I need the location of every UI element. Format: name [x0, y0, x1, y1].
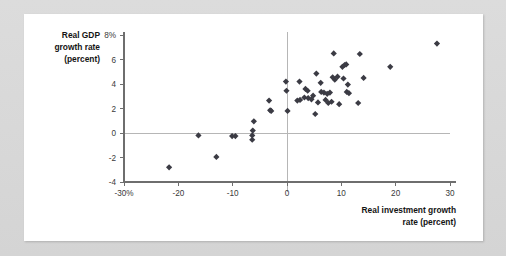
data-point-marker — [213, 154, 219, 160]
data-point-marker — [232, 133, 238, 139]
data-point-marker — [318, 80, 324, 86]
y-axis-title-line: growth rate — [54, 42, 100, 52]
x-tick-label: 10 — [337, 189, 347, 198]
data-point-marker — [315, 99, 321, 105]
y-tick-label: -2 — [109, 154, 117, 163]
x-tick-label: 30 — [445, 189, 455, 198]
scatter-plot-svg: -4-202468%-30%-20-100102030Real GDPgrowt… — [24, 14, 483, 241]
scatter-plot: -4-202468%-30%-20-100102030Real GDPgrowt… — [24, 14, 483, 241]
data-point-marker — [284, 108, 290, 114]
figure-root: -4-202468%-30%-20-100102030Real GDPgrowt… — [0, 0, 506, 256]
x-tick-label: 20 — [391, 189, 401, 198]
y-tick-label: -4 — [109, 178, 117, 187]
x-tick-label: -30% — [114, 189, 133, 198]
data-point-marker — [357, 51, 363, 57]
data-point-marker — [251, 118, 257, 124]
data-point-marker — [336, 101, 342, 107]
y-tick-label: 4 — [111, 80, 116, 89]
y-axis-title-line: (percent) — [64, 54, 100, 64]
data-point-marker — [283, 88, 289, 94]
data-point-marker — [166, 164, 172, 170]
data-point-marker — [313, 70, 319, 76]
data-point-marker — [387, 64, 393, 70]
y-tick-label: 8% — [104, 31, 116, 40]
x-tick-label: -10 — [227, 189, 239, 198]
data-point-marker — [355, 100, 361, 106]
y-axis-title-line: Real GDP — [62, 30, 101, 40]
data-point-marker — [266, 97, 272, 103]
x-tick-label: -20 — [172, 189, 184, 198]
data-point-marker — [434, 40, 440, 46]
y-tick-label: 6 — [111, 56, 116, 65]
data-point-marker — [345, 82, 351, 88]
x-tick-label: 0 — [285, 189, 290, 198]
chart-card: -4-202468%-30%-20-100102030Real GDPgrowt… — [24, 14, 483, 241]
data-point-marker — [331, 50, 337, 56]
data-point-marker — [249, 137, 255, 143]
x-axis-title-line: rate (percent) — [402, 217, 456, 227]
data-point-marker — [312, 111, 318, 117]
data-point-marker — [340, 75, 346, 81]
data-point-marker — [283, 78, 289, 84]
data-point-marker — [361, 75, 367, 81]
y-tick-label: 0 — [111, 129, 116, 138]
y-tick-label: 2 — [111, 105, 116, 114]
x-axis-title-line: Real investment growth — [362, 205, 456, 215]
data-point-marker — [296, 78, 302, 84]
